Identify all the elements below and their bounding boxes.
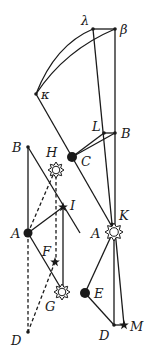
label-K: K	[118, 208, 130, 223]
point-lambda	[91, 27, 95, 31]
point-D-left	[26, 330, 30, 334]
point-kappa	[34, 92, 38, 96]
upper-construction: λ β κ L B C K A E D M	[34, 13, 144, 343]
label-B-left: B	[11, 140, 22, 155]
earth-A-left-icon	[24, 229, 33, 238]
label-A-right: A	[90, 226, 100, 241]
label-E: E	[93, 286, 104, 301]
label-D-right: D	[98, 328, 110, 343]
label-C: C	[81, 154, 91, 169]
sun-H-icon	[48, 162, 64, 178]
sun-G-icon	[54, 284, 70, 300]
point-B-left	[26, 145, 30, 149]
star-F-icon	[50, 257, 60, 266]
sun-icon	[105, 223, 123, 241]
point-B-right	[113, 131, 117, 135]
label-L: L	[91, 119, 101, 134]
label-beta: β	[119, 22, 128, 37]
earth-C-icon	[67, 152, 77, 162]
label-G: G	[45, 299, 55, 314]
label-M: M	[129, 319, 144, 334]
line-A-M	[115, 230, 124, 325]
astronomical-diagram: λ β κ L B C K A E D M	[0, 0, 151, 361]
label-B-right: B	[120, 126, 131, 141]
label-lambda: λ	[80, 13, 89, 28]
line-kappa-A	[36, 94, 115, 232]
left-construction: B H I A F G D	[10, 140, 80, 348]
point-D-right	[112, 323, 116, 327]
label-H: H	[45, 145, 58, 160]
line-A-E	[85, 232, 113, 293]
label-kappa: κ	[40, 87, 50, 102]
line-C-B	[72, 133, 115, 157]
earth-E-icon	[80, 288, 90, 298]
label-A-left: A	[10, 226, 20, 241]
label-F: F	[41, 244, 52, 259]
point-beta	[113, 27, 117, 31]
point-L	[102, 131, 106, 135]
label-I: I	[69, 198, 76, 213]
label-D-left: D	[10, 333, 22, 348]
